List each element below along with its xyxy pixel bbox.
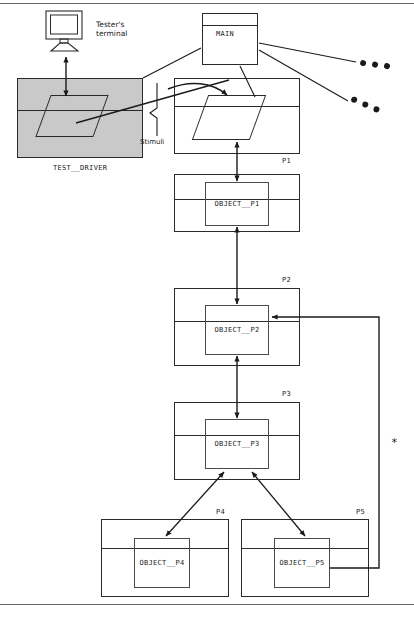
object-p1-label: OBJECT__P1	[213, 200, 260, 208]
diagram-canvas: Tester's terminal MAIN TEST__DRIVER P1 S…	[0, 0, 414, 618]
module-p4-corner-label: P4	[216, 508, 225, 516]
object-box-p3: OBJECT__P3	[205, 419, 269, 469]
object-box-p4: OBJECT__P4	[134, 538, 190, 588]
module-main-divider	[203, 25, 257, 26]
object-p5-label: OBJECT__P5	[278, 559, 325, 567]
tester-terminal-label-line1: Tester's	[96, 20, 124, 29]
stimuli-leader-zigzag	[150, 83, 157, 136]
tester-terminal-icon	[42, 10, 90, 54]
module-test-driver-label: TEST__DRIVER	[53, 164, 107, 172]
top-horizontal-rule	[0, 3, 414, 4]
module-p3-corner-label: P3	[282, 390, 291, 398]
module-p1-corner-label: P1	[282, 157, 291, 165]
object-box-p1: OBJECT__P1	[205, 182, 269, 226]
bottom-horizontal-rule	[0, 604, 414, 605]
module-p2-corner-label: P2	[282, 276, 291, 284]
object-box-p2: OBJECT__P2	[205, 305, 269, 355]
module-main	[202, 13, 258, 65]
ellipsis-upper	[358, 54, 396, 75]
module-p5-corner-label: P5	[356, 508, 365, 516]
stimuli-label: Stimuli	[140, 138, 164, 146]
asterisk-annotation: *	[391, 437, 398, 448]
object-box-p5: OBJECT__P5	[274, 538, 330, 588]
module-main-label: MAIN	[216, 30, 234, 38]
object-p4-label: OBJECT__P4	[138, 559, 185, 567]
connector-main-testdriver	[143, 48, 201, 78]
object-p2-label: OBJECT__P2	[213, 326, 260, 334]
connector-main-ellipsis-upper	[259, 43, 356, 62]
tester-terminal-label-line2: terminal	[96, 29, 127, 38]
object-p3-label: OBJECT__P3	[213, 440, 260, 448]
ellipsis-lower	[348, 95, 386, 117]
